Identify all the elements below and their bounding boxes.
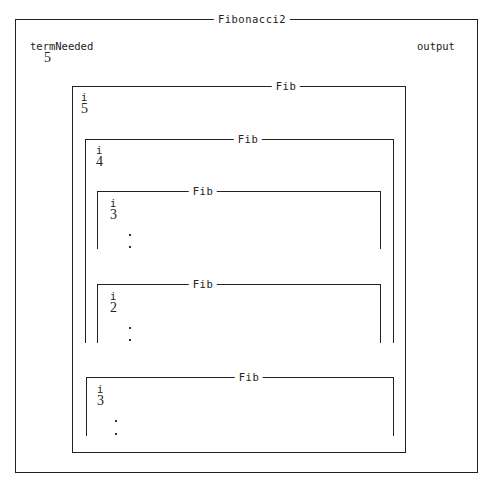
frame-title: Fibonacci2 — [214, 12, 290, 26]
fib-frame-5: Fib — [86, 377, 394, 436]
frame-title: Fib — [189, 277, 217, 291]
fib-frame-3: Fib — [97, 191, 381, 249]
var-value-i: 3 — [97, 394, 104, 408]
var-label-output: output — [417, 40, 455, 52]
var-value-i: 5 — [81, 102, 88, 116]
frame-title: Fib — [189, 184, 217, 198]
var-value-i: 4 — [96, 155, 103, 169]
var-label-termNeeded: termNeeded — [30, 40, 93, 52]
ellipsis-dot — [115, 420, 117, 422]
var-value-i: 3 — [110, 208, 117, 222]
var-value-termNeeded: 5 — [44, 51, 51, 65]
ellipsis-dot — [129, 339, 131, 341]
frame-title: Fib — [235, 370, 263, 384]
var-value-i: 2 — [110, 301, 117, 315]
ellipsis-dot — [129, 327, 131, 329]
ellipsis-dot — [129, 234, 131, 236]
fib-frame-4: Fib — [97, 284, 381, 343]
ellipsis-dot — [115, 433, 117, 435]
ellipsis-dot — [129, 246, 131, 248]
frame-title: Fib — [272, 79, 300, 93]
frame-title: Fib — [234, 132, 262, 146]
